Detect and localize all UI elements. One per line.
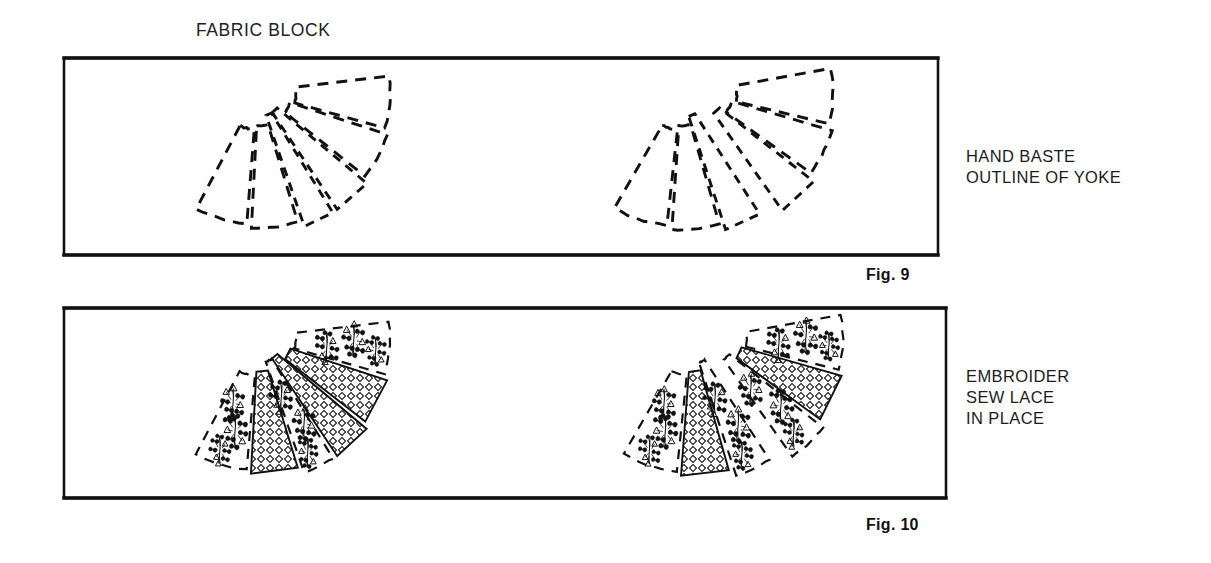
fig10-yoke-front — [196, 321, 390, 474]
triangle-motif — [652, 441, 658, 446]
leaf-motif — [305, 437, 309, 441]
bud-motif — [745, 415, 750, 420]
figure-frame-fig9 — [64, 58, 938, 255]
bud-motif — [311, 432, 316, 437]
bud-motif — [789, 407, 794, 412]
leaf-motif — [638, 447, 642, 451]
leaf-motif — [370, 361, 374, 365]
bud-motif — [757, 379, 762, 384]
bud-motif — [834, 338, 838, 342]
bud-motif — [805, 350, 810, 355]
leaf-motif — [295, 428, 300, 433]
bud-motif — [374, 362, 378, 366]
leaf-motif — [639, 439, 643, 443]
bud-motif — [314, 452, 318, 456]
bud-motif — [742, 441, 746, 445]
leaf-motif — [368, 355, 372, 359]
leaf-motif — [656, 436, 661, 441]
bud-motif — [334, 347, 339, 352]
triangle-motif — [741, 374, 747, 380]
bud-motif — [813, 344, 818, 349]
bud-motif — [239, 410, 244, 415]
leaf-motif — [783, 429, 787, 433]
bud-motif — [673, 431, 678, 436]
bud-motif — [835, 346, 839, 350]
leaf-motif — [226, 436, 231, 441]
leaf-motif — [796, 432, 800, 436]
bud-motif — [334, 356, 339, 361]
leaf-motif — [300, 457, 304, 461]
leaf-motif — [225, 407, 230, 411]
leaf-motif — [283, 396, 288, 400]
bud-motif — [220, 435, 224, 439]
embroidery-spray — [793, 317, 817, 355]
basting-outline-panel — [689, 114, 760, 230]
embroidery-spray — [738, 370, 762, 406]
embroidery-spray — [732, 440, 753, 470]
leaf-motif — [278, 380, 283, 384]
leaf-motif — [345, 345, 350, 350]
leaf-motif — [223, 449, 227, 453]
fig9-yoke-back — [615, 68, 834, 230]
leaf-motif — [819, 334, 823, 338]
stem-branch — [782, 346, 786, 347]
bud-motif — [800, 433, 804, 437]
bud-motif — [746, 433, 751, 438]
triangle-motif — [295, 409, 302, 415]
triangle-motif — [224, 426, 231, 432]
bud-motif — [721, 408, 726, 413]
leaf-motif — [796, 341, 801, 346]
stem-branch — [236, 404, 240, 405]
leaf-motif — [718, 397, 723, 401]
bud-motif — [288, 405, 293, 410]
embroidery-spray — [365, 335, 386, 366]
leaf-motif — [745, 454, 749, 458]
bud-motif — [650, 436, 654, 440]
bud-motif — [240, 394, 245, 399]
diagram-artwork — [0, 0, 1211, 563]
leaf-motif — [323, 330, 328, 334]
leaf-motif — [745, 401, 750, 405]
leaf-motif — [652, 398, 657, 402]
triangle-motif — [728, 411, 735, 417]
instruction-sheet: FABRIC BLOCK HAND BASTE OUTLINE OF YOKE … — [0, 0, 1211, 563]
basting-outline-panel — [714, 108, 814, 211]
bud-motif — [225, 458, 229, 462]
bud-motif — [741, 466, 745, 470]
bud-motif — [829, 332, 833, 336]
bud-motif — [780, 329, 785, 334]
triangle-motif — [653, 427, 660, 433]
bud-motif — [288, 397, 293, 402]
leaf-motif — [371, 335, 375, 339]
triangle-motif — [733, 451, 739, 456]
bud-motif — [663, 445, 668, 450]
stem-branch — [657, 430, 663, 431]
fig10-yoke-back — [624, 315, 844, 476]
leaf-motif — [784, 422, 788, 426]
leaf-motif — [791, 418, 795, 422]
frame-border — [64, 58, 938, 255]
leaf-motif — [315, 343, 320, 347]
stem-branch — [794, 421, 795, 430]
bud-motif — [671, 394, 676, 399]
leaf-motif — [653, 417, 658, 422]
leaf-motif — [216, 434, 220, 438]
bud-motif — [671, 411, 676, 416]
bud-motif — [227, 450, 231, 454]
embroidery-spray — [341, 321, 365, 358]
triangle-motif — [222, 441, 228, 446]
leaf-motif — [731, 437, 736, 442]
bud-motif — [382, 342, 386, 346]
stem-branch — [778, 350, 779, 360]
bud-motif — [672, 422, 677, 427]
bud-motif — [234, 445, 239, 450]
leaf-motif — [711, 382, 716, 386]
leaf-motif — [771, 411, 776, 416]
bud-motif — [375, 336, 379, 340]
leaf-motif — [824, 356, 828, 360]
bud-motif — [243, 422, 248, 427]
leaf-motif — [793, 331, 798, 336]
leaf-motif — [211, 438, 215, 442]
stem — [793, 422, 794, 447]
embroidery-spray — [726, 406, 751, 444]
